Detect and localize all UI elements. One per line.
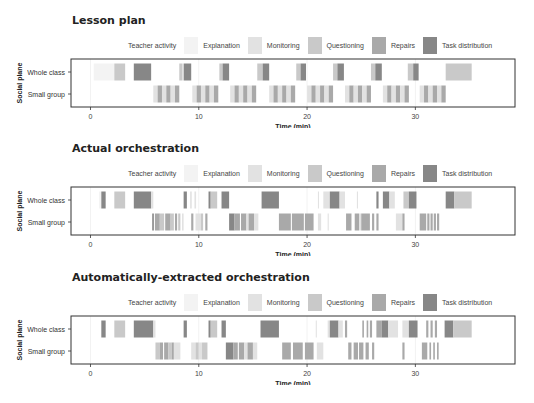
segment-repairs — [248, 343, 253, 360]
segment-repairs — [175, 214, 177, 231]
segment-repairs — [160, 343, 163, 360]
segment-questioning — [211, 321, 217, 338]
segment-monitoring — [388, 321, 398, 338]
segment-monitoring — [345, 86, 349, 103]
segment-monitoring — [174, 343, 180, 360]
segment-explanation — [99, 192, 101, 209]
x-tick-label: 10 — [195, 113, 203, 120]
segment-repairs — [355, 214, 359, 231]
timeline-plot: Whole classSmall group0102030Time (min)S… — [0, 128, 534, 256]
segment-monitoring — [162, 86, 166, 103]
segment-task-distribution — [445, 321, 454, 338]
segment-monitoring — [389, 192, 394, 209]
segment-task-distribution — [222, 192, 230, 209]
segment-monitoring — [392, 86, 396, 103]
x-tick-label: 30 — [411, 241, 419, 248]
segment-repairs — [434, 214, 436, 231]
segment-repairs — [235, 86, 239, 103]
segment-monitoring — [153, 86, 157, 103]
segment-monitoring — [324, 86, 328, 103]
segment-repairs — [435, 321, 437, 338]
segment-repairs — [305, 343, 314, 360]
segment-questioning — [371, 64, 375, 81]
segment-monitoring — [246, 214, 248, 231]
segment-task-distribution — [376, 192, 378, 209]
segment-monitoring — [153, 321, 155, 338]
segment-questioning — [179, 64, 182, 81]
segment-monitoring — [307, 86, 311, 103]
segment-questioning — [454, 192, 471, 209]
segment-repairs — [292, 214, 304, 231]
x-axis-label: Time (min) — [275, 251, 310, 256]
segment-monitoring — [437, 86, 441, 103]
segment-repairs — [437, 214, 439, 231]
segment-questioning — [114, 321, 125, 338]
segment-task-distribution — [409, 192, 417, 209]
segment-repairs — [431, 321, 433, 338]
segment-repairs — [164, 343, 168, 360]
segment-monitoring — [199, 343, 202, 360]
segment-monitoring — [151, 192, 153, 209]
segment-task-distribution — [184, 64, 192, 81]
segment-repairs — [252, 86, 256, 103]
segment-questioning — [196, 343, 199, 360]
segment-repairs — [205, 214, 207, 231]
segment-repairs — [370, 321, 372, 338]
segment-repairs — [431, 214, 433, 231]
y-tick-label: Small group — [28, 219, 65, 227]
segment-repairs — [274, 86, 278, 103]
segment-repairs — [233, 343, 237, 360]
x-tick-label: 0 — [89, 370, 93, 377]
segment-repairs — [348, 343, 351, 360]
segment-task-distribution — [375, 64, 381, 81]
segment-task-distribution — [209, 192, 211, 209]
segment-repairs — [205, 86, 209, 103]
segment-monitoring — [196, 214, 201, 231]
segment-repairs — [372, 343, 374, 360]
segment-monitoring — [359, 214, 361, 231]
segment-task-distribution — [229, 214, 234, 231]
segment-repairs — [241, 214, 246, 231]
segment-repairs — [367, 86, 371, 103]
segment-questioning — [446, 64, 472, 81]
segment-task-distribution — [101, 321, 105, 338]
segment-repairs — [362, 321, 364, 338]
segment-repairs — [293, 343, 303, 360]
segment-monitoring — [383, 86, 387, 103]
segment-repairs — [424, 86, 428, 103]
y-axis-label: Social plane — [16, 319, 24, 360]
segment-task-distribution — [101, 192, 105, 209]
segment-questioning — [160, 214, 164, 231]
segment-questioning — [403, 192, 408, 209]
segment-questioning — [296, 64, 300, 81]
y-tick-label: Whole class — [27, 197, 65, 204]
segment-repairs — [158, 86, 162, 103]
segment-questioning — [114, 192, 125, 209]
segment-monitoring — [428, 86, 432, 103]
segment-task-distribution — [134, 321, 153, 338]
segment-task-distribution — [152, 214, 154, 231]
segment-task-distribution — [263, 64, 269, 81]
segment-monitoring — [318, 214, 321, 231]
segment-repairs — [402, 214, 404, 231]
segment-monitoring — [354, 86, 358, 103]
y-tick-label: Whole class — [27, 326, 65, 333]
segment-task-distribution — [337, 64, 343, 81]
segment-repairs — [197, 86, 201, 103]
segment-monitoring — [239, 86, 243, 103]
segment-questioning — [168, 343, 171, 360]
segment-explanation — [94, 64, 115, 81]
segment-repairs — [441, 86, 445, 103]
segment-monitoring — [340, 192, 345, 209]
segment-monitoring — [396, 214, 402, 231]
segment-task-distribution — [262, 192, 279, 209]
segment-monitoring — [194, 192, 196, 209]
chart-panel: Lesson planTeacher activityExplanationMo… — [0, 0, 534, 128]
segment-monitoring — [323, 192, 329, 209]
segment-monitoring — [182, 214, 184, 231]
segment-task-distribution — [330, 321, 339, 338]
segment-repairs — [155, 214, 160, 231]
segment-questioning — [114, 64, 125, 81]
segment-repairs — [165, 214, 170, 231]
segment-task-distribution — [382, 321, 388, 338]
